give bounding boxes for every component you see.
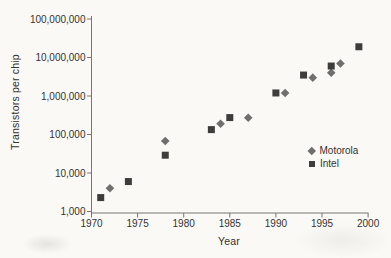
data-point-motorola (106, 184, 115, 193)
y-tick-label: 10,000,000 (35, 52, 85, 63)
x-tick-label: 1980 (173, 218, 196, 229)
data-point-intel (125, 178, 132, 185)
y-tick-label: 100,000,000 (30, 14, 86, 25)
data-point-motorola (244, 113, 253, 122)
data-point-intel (328, 63, 335, 70)
y-tick-label: 10,000 (55, 168, 86, 179)
motorola-diamond-icon (308, 147, 316, 155)
y-tick-label: 1,000,000 (41, 91, 86, 102)
legend: Motorola Intel (307, 144, 358, 170)
legend-label-motorola: Motorola (320, 145, 359, 156)
legend-item-intel: Intel (307, 157, 358, 170)
x-tick-label: 1990 (265, 218, 288, 229)
data-point-motorola (336, 59, 345, 68)
data-point-motorola (216, 119, 225, 128)
intel-square-icon (309, 161, 315, 167)
x-tick-label: 1975 (126, 218, 149, 229)
legend-item-motorola: Motorola (307, 144, 358, 157)
y-axis-title: Transistors per chip (9, 54, 21, 150)
y-tick-label: 1,000 (60, 206, 85, 217)
x-tick-label: 2000 (357, 218, 380, 229)
y-tick-label: 100,000 (49, 129, 86, 140)
data-point-intel (300, 72, 307, 79)
data-point-intel (208, 126, 215, 133)
data-point-intel (162, 152, 169, 159)
data-point-motorola (281, 89, 290, 98)
x-tick-label: 1985 (219, 218, 242, 229)
data-point-intel (272, 89, 279, 96)
data-point-motorola (327, 69, 336, 78)
x-tick-label: 1995 (311, 218, 334, 229)
x-tick-label: 1970 (80, 218, 103, 229)
data-point-motorola (161, 137, 170, 146)
scatter-plot-canvas: 1,00010,000100,0001,000,00010,000,000100… (0, 0, 391, 258)
data-point-intel (97, 194, 104, 201)
data-point-motorola (308, 73, 317, 82)
legend-label-intel: Intel (320, 158, 339, 169)
data-point-intel (226, 114, 233, 121)
transistors-per-chip-figure: 1,00010,000100,0001,000,00010,000,000100… (0, 0, 391, 258)
data-point-intel (355, 43, 362, 50)
x-axis-title: Year (218, 235, 240, 247)
